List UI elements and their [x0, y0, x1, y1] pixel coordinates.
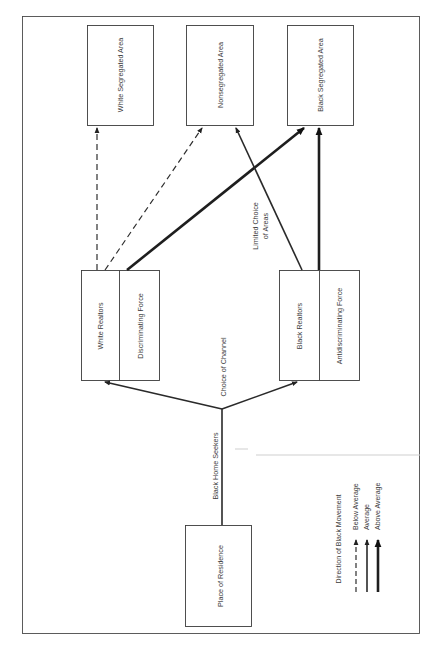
- node-black-segregated-area: Black Segregated Area: [288, 26, 354, 126]
- edge-to-white-realtors: [105, 382, 222, 409]
- edge-to-black-realtors: [222, 382, 297, 409]
- node-nonsegregated-area: Nonsegregated Area: [187, 26, 254, 126]
- legend-label-below-average: Below Average: [352, 483, 360, 530]
- node-label: Black Segregated Area: [316, 38, 325, 112]
- edge-label-black-home-seekers: Black Home Seekers: [211, 432, 220, 500]
- node-label-discriminating-force: Discriminating Force: [136, 293, 145, 359]
- edge-label-line: Limited Choice: [251, 202, 260, 250]
- legend-title: Direction of Black Movement: [335, 494, 342, 583]
- node-label: Black Realtors: [295, 302, 304, 349]
- edge-discriminating-force-to-black-segregated: [127, 128, 304, 270]
- node-white-segregated-area: White Segregated Area: [88, 26, 154, 126]
- edge-label-limited-choice: Limited Choice of Areas: [251, 202, 270, 250]
- node-label: Place of Residence: [216, 545, 225, 607]
- diagram-canvas: White Segregated Area Nonsegregated Area…: [0, 0, 431, 656]
- node-label: Nonsegregated Area: [216, 42, 225, 108]
- node-label-antidiscriminating-force: Antidiscriminating Force: [335, 288, 344, 365]
- legend: Direction of Black Movement Below Averag…: [335, 483, 382, 592]
- node-label: White Segregated Area: [116, 38, 125, 112]
- legend-label-above-average: Above Average: [374, 483, 382, 530]
- edge-label-line: of Areas: [261, 212, 270, 239]
- legend-label-average: Average: [363, 504, 371, 530]
- edge-label-choice-of-channel: Choice of Channel: [219, 337, 228, 397]
- node-label: White Realtors: [96, 302, 105, 350]
- node-place-of-residence: Place of Residence: [186, 526, 252, 627]
- node-white-realtors: White Realtors Discriminating Force: [82, 271, 160, 381]
- edge-black-realtors-to-nonsegregated: [236, 128, 302, 270]
- node-black-realtors: Black Realtors Antidiscriminating Force: [280, 271, 360, 381]
